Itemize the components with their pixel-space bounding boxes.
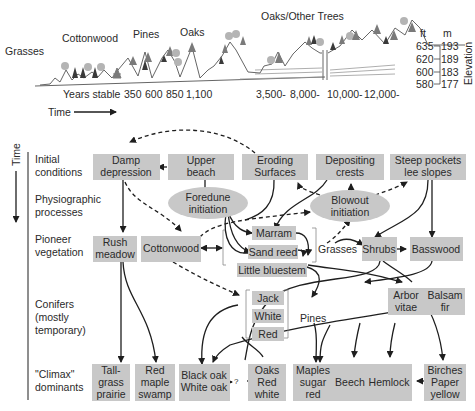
node-white-pine[interactable]: White: [252, 309, 284, 323]
year-12000: 12,000-: [364, 88, 400, 100]
svg-text:prairie: prairie: [96, 388, 125, 400]
node-rush-meadow[interactable]: Rush meadow: [93, 236, 137, 262]
veg-label-oaks: Oaks: [180, 26, 205, 38]
svg-text:initiation: initiation: [189, 203, 228, 215]
time-label-horizontal: Time: [48, 106, 71, 118]
node-marram[interactable]: Marram: [252, 226, 296, 240]
svg-text:Sand reed: Sand reed: [249, 246, 298, 258]
svg-text:Blowout: Blowout: [331, 194, 368, 206]
node-balsam-fir[interactable]: Balsam fir: [425, 288, 465, 315]
svg-text:Basswood: Basswood: [412, 243, 461, 255]
svg-text:Surfaces: Surfaces: [254, 166, 295, 178]
row-label-initial-2: conditions: [35, 166, 82, 178]
node-black-white-oak[interactable]: Black oak White oak: [179, 364, 230, 401]
svg-text:Red: Red: [145, 364, 164, 376]
row-label-conifers-1: Conifers: [35, 298, 74, 310]
row-labels: Time Initial conditions Physiographic pr…: [10, 143, 101, 400]
node-little-bluestem[interactable]: Little bluestem: [237, 263, 307, 277]
svg-text:sugar: sugar: [300, 376, 327, 388]
uncertain-relation-label: ?: [234, 377, 239, 386]
svg-text:Little bluestem: Little bluestem: [238, 264, 306, 276]
node-cottonwood[interactable]: Cottonwood: [141, 236, 201, 262]
node-oaks-red-white[interactable]: Oaks Red white: [248, 364, 286, 401]
year-3500: 3,500-: [256, 88, 286, 100]
svg-text:Balsam: Balsam: [427, 289, 462, 301]
node-beech[interactable]: Beech: [333, 364, 367, 401]
elevation-axis-label: Elevation: [462, 42, 474, 85]
year-8000: 8,000-: [290, 88, 320, 100]
year-1100: 1,100: [186, 88, 212, 100]
pines-group-label: Pines: [300, 312, 326, 324]
veg-label-pines: Pines: [133, 28, 159, 40]
veg-label-cottonwood: Cottonwood: [62, 32, 118, 44]
node-shrubs[interactable]: Shrubs: [362, 237, 397, 261]
node-jack-pine[interactable]: Jack: [252, 291, 284, 305]
svg-text:swamp: swamp: [138, 388, 171, 400]
svg-text:lee slopes: lee slopes: [404, 166, 451, 178]
node-red-pine[interactable]: Red: [252, 327, 284, 341]
svg-text:Rush: Rush: [103, 236, 128, 248]
elev-m-189: 189: [441, 53, 459, 65]
svg-text:Damp: Damp: [112, 154, 140, 166]
veg-label-oaks-other: Oaks/Other Trees: [261, 10, 344, 22]
svg-text:Red: Red: [258, 328, 277, 340]
svg-text:initiation: initiation: [331, 206, 370, 218]
elev-m-183: 183: [441, 66, 459, 78]
svg-text:Birches: Birches: [427, 364, 462, 376]
node-arbor-vitae[interactable]: Arbor vitae: [388, 288, 425, 315]
row-label-physio-2: processes: [35, 206, 83, 218]
node-birches[interactable]: Birches Paper yellow: [424, 364, 466, 401]
year-10000: 10,000-: [327, 88, 363, 100]
svg-text:Paper: Paper: [431, 376, 460, 388]
svg-text:Depositing: Depositing: [325, 154, 375, 166]
row-label-initial-1: Initial: [35, 153, 60, 165]
year-350: 350: [124, 88, 142, 100]
nodes: Damp depression Upper beach Eroding Surf…: [92, 154, 466, 401]
node-foredune-initiation[interactable]: Foredune initiation: [168, 187, 248, 219]
node-tallgrass-prairie[interactable]: Tall- grass prairie: [92, 364, 130, 401]
svg-text:vitae: vitae: [395, 301, 417, 313]
node-upper-beach[interactable]: Upper beach: [168, 154, 234, 180]
year-600: 600: [145, 88, 163, 100]
elev-m-header: m: [443, 27, 452, 39]
svg-text:depression: depression: [100, 166, 152, 178]
node-damp-depression[interactable]: Damp depression: [93, 154, 160, 180]
svg-text:Eroding: Eroding: [257, 154, 293, 166]
veg-label-grasses: Grasses: [5, 45, 44, 57]
time-label-vertical: Time: [10, 143, 22, 166]
row-label-pioneer-1: Pioneer: [35, 233, 72, 245]
node-blowout-initiation[interactable]: Blowout initiation: [310, 190, 390, 222]
row-label-climax-2: dominants: [35, 381, 83, 393]
row-label-conifers-3: temporary): [35, 324, 86, 336]
svg-text:Marram: Marram: [256, 227, 292, 239]
svg-text:fir: fir: [441, 301, 450, 313]
svg-text:White: White: [255, 310, 282, 322]
node-red-maple-swamp[interactable]: Red maple swamp: [135, 364, 175, 401]
elev-m-193: 193: [441, 40, 459, 52]
elev-ft-620: 620: [416, 53, 434, 65]
svg-text:Foredune: Foredune: [186, 191, 231, 203]
node-maples-sugar-red[interactable]: Maples sugar red: [293, 364, 333, 401]
svg-text:maple: maple: [141, 376, 170, 388]
node-depositing-crests[interactable]: Depositing crests: [316, 154, 384, 180]
node-grasses[interactable]: Grasses: [318, 243, 357, 255]
tree-icons: [61, 17, 416, 78]
elev-ft-600: 600: [416, 66, 434, 78]
svg-text:Red: Red: [257, 376, 276, 388]
row-label-conifers-2: (mostly: [35, 311, 70, 323]
svg-text:Hemlock: Hemlock: [369, 376, 411, 388]
elev-bracket: [434, 46, 440, 84]
node-steep-pockets[interactable]: Steep pockets lee slopes: [390, 154, 466, 180]
elev-ft-header: ft: [420, 27, 426, 39]
year-850: 850: [166, 88, 184, 100]
node-sand-reed[interactable]: Sand reed: [248, 245, 298, 259]
svg-text:Beech: Beech: [335, 376, 365, 388]
dune-succession-diagram: Grasses Cottonwood Pines Oaks Oaks/Other…: [0, 0, 475, 411]
row-label-pioneer-2: vegetation: [35, 246, 84, 258]
svg-text:crests: crests: [336, 166, 364, 178]
node-hemlock[interactable]: Hemlock: [367, 364, 412, 401]
node-basswood[interactable]: Basswood: [410, 237, 463, 261]
profile-break: [323, 50, 327, 80]
svg-text:grass: grass: [98, 376, 124, 388]
node-eroding-surfaces[interactable]: Eroding Surfaces: [242, 154, 308, 180]
